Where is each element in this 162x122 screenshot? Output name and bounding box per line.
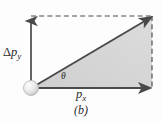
figure-caption: (b): [0, 104, 162, 116]
delta-symbol: Δ: [3, 45, 11, 59]
subscript-x: x: [82, 93, 86, 103]
subscript-y: y: [17, 51, 21, 61]
vertical-component-label: Δpy: [3, 46, 21, 61]
momentum-vector-figure: Δpy px θ (b): [0, 0, 162, 122]
angle-theta-label: θ: [61, 72, 66, 82]
horizontal-component-label: px: [76, 88, 86, 103]
particle-ball-icon: [24, 81, 39, 96]
